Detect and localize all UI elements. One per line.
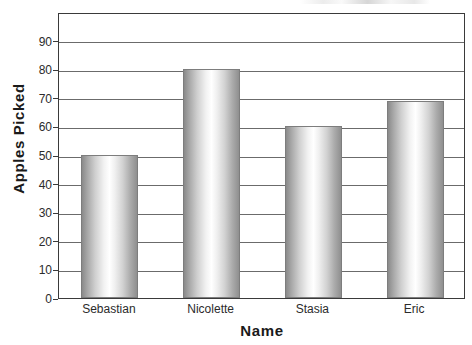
y-axis-tick-mark bbox=[53, 299, 58, 300]
x-axis-category-label: Sebastian bbox=[58, 303, 160, 315]
y-axis-title: Apples Picked bbox=[10, 59, 27, 219]
bar-chart: Apples Picked 0102030405060708090 Sebast… bbox=[0, 0, 472, 345]
y-axis-tick-mark bbox=[53, 127, 58, 128]
y-axis-tick-label: 10 bbox=[2, 264, 52, 276]
y-axis-tick-mark bbox=[53, 156, 58, 157]
bar bbox=[387, 101, 444, 298]
y-axis-tick-label: 40 bbox=[2, 179, 52, 191]
y-axis-tick-label: 60 bbox=[2, 121, 52, 133]
y-axis-tick-mark bbox=[53, 270, 58, 271]
bar bbox=[183, 69, 240, 298]
x-axis-category-label: Stasia bbox=[262, 303, 364, 315]
y-axis-tick-label: 50 bbox=[2, 150, 52, 162]
gridline bbox=[59, 42, 464, 43]
bar bbox=[81, 155, 138, 298]
bar bbox=[285, 126, 342, 298]
gridline bbox=[59, 71, 464, 72]
y-axis-tick-label: 90 bbox=[2, 36, 52, 48]
y-axis-tick-mark bbox=[53, 41, 58, 42]
y-axis-tick-label: 80 bbox=[2, 64, 52, 76]
y-axis-tick-label: 20 bbox=[2, 236, 52, 248]
clipped-chart-title bbox=[300, 0, 430, 4]
y-axis-tick-mark bbox=[53, 213, 58, 214]
plot-area bbox=[58, 13, 465, 299]
y-axis-tick-mark bbox=[53, 98, 58, 99]
y-axis-tick-label: 70 bbox=[2, 93, 52, 105]
y-axis-tick-mark bbox=[53, 184, 58, 185]
x-axis-title: Name bbox=[58, 322, 466, 339]
y-axis-tick-mark bbox=[53, 241, 58, 242]
y-axis-tick-label: 0 bbox=[2, 293, 52, 305]
y-axis-tick-label: 30 bbox=[2, 207, 52, 219]
x-axis-category-label: Nicolette bbox=[160, 303, 262, 315]
x-axis-category-label: Eric bbox=[363, 303, 465, 315]
y-axis-tick-mark bbox=[53, 70, 58, 71]
